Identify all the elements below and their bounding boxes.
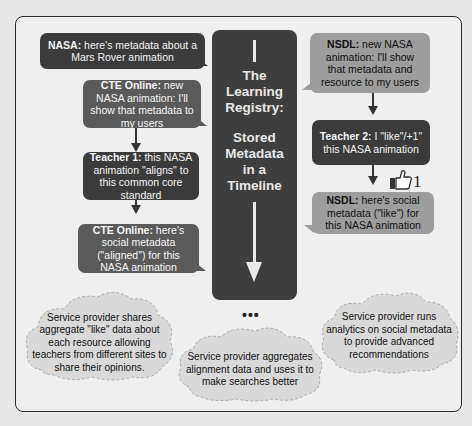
bubble-tail: [304, 225, 314, 233]
timeline-arrow-shaft: [253, 202, 256, 264]
registry-title: The Learning Registry:: [212, 68, 297, 116]
flow-arrow-icon: [368, 176, 378, 185]
bubble-tail: [198, 58, 208, 66]
flow-arrow-icon: [368, 106, 378, 115]
bubble-speaker: NSDL:: [326, 194, 358, 206]
title-line: Learning: [212, 84, 297, 100]
registry-subtitle: Stored Metadata in a Timeline: [212, 130, 297, 194]
flow-connector: [135, 128, 137, 144]
bubble-speaker: NASA:: [48, 39, 81, 51]
title-line: The: [212, 68, 297, 84]
title-line: Registry:: [212, 100, 297, 116]
subtitle-line: in a: [212, 162, 297, 178]
timeline-top-line: [253, 40, 256, 62]
bubble-nsdl-social: NSDL: here's social metadata ("like") fo…: [312, 192, 434, 234]
bubble-speaker: CTE Online:: [93, 224, 153, 236]
subtitle-line: Timeline: [212, 178, 297, 194]
subtitle-line: Metadata: [212, 146, 297, 162]
bubble-text: here's metadata about a Mars Rover anima…: [71, 39, 197, 64]
bubble-speaker: CTE Online:: [101, 79, 161, 91]
bubble-nasa-metadata: NASA: here's metadata about a Mars Rover…: [40, 33, 205, 69]
timeline-arrow-head-icon: [246, 262, 262, 282]
bubble-teacher-2: Teacher 2: I "like"/+1" this NASA animat…: [312, 120, 430, 165]
subtitle-line: Stored: [212, 130, 297, 146]
bubble-tail: [302, 82, 312, 90]
bubble-cte-online-social: CTE Online: here's social metadata ("ali…: [78, 224, 199, 273]
cloud-aggregate-likes: Service provider shares aggregate "like"…: [22, 285, 177, 383]
bubble-speaker: NSDL:: [327, 38, 359, 50]
bubble-tail: [196, 263, 206, 271]
timeline-continues-ellipsis: •••: [242, 307, 260, 323]
bubble-speaker: Teacher 1:: [90, 151, 142, 163]
cloud-alignment-data: Service provider aggregates alignment da…: [175, 325, 325, 402]
bubble-speaker: Teacher 2:: [320, 130, 372, 142]
bubble-tail: [197, 118, 207, 126]
bubble-teacher-1: Teacher 1: this NASA animation "aligns" …: [83, 152, 199, 200]
cloud-analytics: Service provider runs analytics on socia…: [318, 288, 460, 376]
flow-arrow-icon: [131, 205, 141, 214]
thumbs-up-icon: [390, 170, 412, 190]
like-count: 1: [413, 173, 422, 190]
flow-connector: [372, 93, 374, 107]
bubble-nsdl-new: NSDL: new NASA animation: I'll show that…: [310, 33, 430, 93]
learning-registry-panel: The Learning Registry: Stored Metadata i…: [212, 30, 297, 300]
bubble-cte-online-new: CTE Online: new NASA animation: I'll sho…: [83, 80, 201, 128]
cloud-text: Service provider runs analytics on socia…: [318, 310, 460, 362]
like-badge: 1: [390, 170, 422, 190]
cloud-text: Service provider aggregates alignment da…: [175, 345, 325, 395]
cloud-text: Service provider shares aggregate "like"…: [22, 313, 177, 373]
